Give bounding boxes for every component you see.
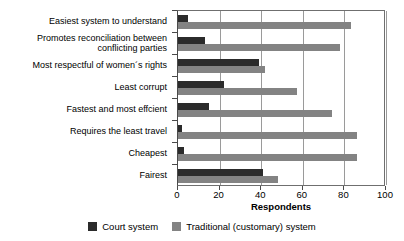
bar-traditional <box>178 22 351 29</box>
x-tick-label: 40 <box>245 189 275 200</box>
bars-layer <box>178 11 384 185</box>
bar-group <box>178 121 384 143</box>
legend-swatch-court <box>88 222 97 231</box>
bar-traditional <box>178 132 357 139</box>
category-label: Easiest system to understand <box>0 16 167 27</box>
plot-wrapper: Easiest system to understandPromotes rec… <box>0 8 404 188</box>
x-axis-title: Respondents <box>177 201 385 212</box>
x-tick-label: 0 <box>162 189 192 200</box>
bar-traditional <box>178 44 340 51</box>
bar-traditional <box>178 66 265 73</box>
category-tick <box>172 98 177 99</box>
plot-area <box>177 10 385 186</box>
x-tick-label: 80 <box>328 189 358 200</box>
category-label: Requires the least travel <box>0 126 167 137</box>
bar-group <box>178 77 384 99</box>
bar-court <box>178 15 188 22</box>
x-tick-label: 100 <box>370 189 400 200</box>
bar-court <box>178 147 184 154</box>
legend-label: Traditional (customary) system <box>186 221 316 232</box>
x-tick-label: 60 <box>287 189 317 200</box>
category-label: Fastest and most effcient <box>0 104 167 115</box>
category-label: Least corrupt <box>0 82 167 93</box>
bar-group <box>178 55 384 77</box>
bar-court <box>178 59 259 66</box>
category-label: Cheapest <box>0 148 167 159</box>
category-tick <box>172 164 177 165</box>
x-axis-ticks: 020406080100 <box>0 188 404 202</box>
bar-traditional <box>178 154 357 161</box>
bar-court <box>178 125 182 132</box>
bar-traditional <box>178 110 332 117</box>
bar-traditional <box>178 176 278 183</box>
legend-label: Court system <box>102 221 158 232</box>
bar-court <box>178 37 205 44</box>
legend-swatch-trad <box>172 222 181 231</box>
legend-item: Court system <box>88 221 158 232</box>
category-label: Promotes reconciliation between conflict… <box>0 33 167 54</box>
legend-item: Traditional (customary) system <box>172 221 316 232</box>
bar-court <box>178 169 263 176</box>
bar-group <box>178 11 384 33</box>
bar-group <box>178 33 384 55</box>
chart-legend: Court systemTraditional (customary) syst… <box>0 219 404 233</box>
category-tick <box>172 76 177 77</box>
bar-group <box>178 143 384 165</box>
bar-court <box>178 103 209 110</box>
category-label: Fairest <box>0 170 167 181</box>
bar-court <box>178 81 224 88</box>
category-axis-labels: Easiest system to understandPromotes rec… <box>0 8 172 188</box>
category-tick <box>172 120 177 121</box>
gridline <box>386 11 387 185</box>
bar-chart-figure: Easiest system to understandPromotes rec… <box>0 0 404 241</box>
category-tick <box>172 54 177 55</box>
category-label: Most respectful of women´s rights <box>0 60 167 71</box>
bar-group <box>178 99 384 121</box>
bar-traditional <box>178 88 297 95</box>
bar-group <box>178 165 384 187</box>
category-tick <box>172 142 177 143</box>
category-tick <box>172 10 177 11</box>
category-tick <box>172 32 177 33</box>
x-tick-label: 20 <box>204 189 234 200</box>
